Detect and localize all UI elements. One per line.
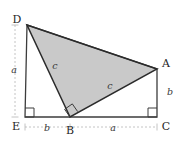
right-angle-C [148,108,157,117]
shaded-triangle-DAB [27,25,157,117]
label-a-bottom: a [110,122,116,133]
vertex-label-E: E [12,120,20,133]
vertex-label-C: C [162,120,170,133]
right-angle-E [25,108,34,117]
label-c-upper: c [52,60,58,71]
geometry-diagram: D A E B C accbba [0,0,183,141]
label-a-left: a [11,64,17,75]
vertex-label-D: D [13,13,22,26]
vertex-label-B: B [66,124,74,137]
diagram-canvas: D A E B C accbba [0,0,183,141]
vertex-label-A: A [161,57,171,70]
label-b-right: b [167,86,173,97]
label-c-lower: c [107,80,113,91]
label-b-bottom: b [44,122,50,133]
